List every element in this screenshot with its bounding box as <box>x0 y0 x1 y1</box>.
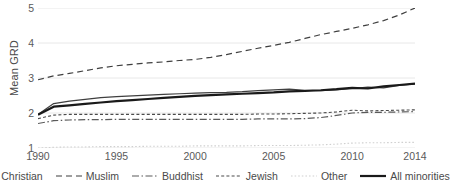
legend-swatch-icon <box>132 171 158 181</box>
legend-item-muslim[interactable]: Muslim <box>56 171 119 182</box>
chart-legend: ChristianMuslimBuddhistJewishOtherAll mi… <box>0 167 421 185</box>
x-tick-label: 2000 <box>183 150 206 162</box>
legend-item-christian[interactable]: Christian <box>0 171 43 182</box>
x-tick-label: 2014 <box>403 150 426 162</box>
series-line-jewish <box>38 110 415 119</box>
legend-item-all-minorities[interactable]: All minorities <box>360 171 450 182</box>
y-tick-label: 3 <box>18 73 34 83</box>
plot-area <box>38 8 415 148</box>
series-line-all-minorities <box>38 84 415 115</box>
y-tick-label: 5 <box>18 3 34 13</box>
legend-item-buddhist[interactable]: Buddhist <box>132 171 203 182</box>
x-tick-label: 1990 <box>26 150 49 162</box>
y-axis-tick-labels: 12345 <box>18 8 34 148</box>
legend-label: All minorities <box>390 171 450 182</box>
series-line-other <box>38 142 415 148</box>
x-tick-label: 2010 <box>340 150 363 162</box>
legend-swatch-icon <box>216 171 242 181</box>
grid-lines <box>38 8 415 148</box>
x-tick-label: 2005 <box>262 150 285 162</box>
legend-label: Christian <box>1 171 42 182</box>
legend-swatch-icon <box>360 171 386 181</box>
x-axis-tick-labels: 199019952000200520102014 <box>38 150 415 164</box>
y-tick-label: 2 <box>18 108 34 118</box>
y-tick-label: 4 <box>18 38 34 48</box>
legend-label: Jewish <box>246 171 278 182</box>
legend-item-jewish[interactable]: Jewish <box>216 171 278 182</box>
legend-swatch-icon <box>56 171 82 181</box>
legend-label: Muslim <box>86 171 119 182</box>
series-line-muslim <box>38 8 415 80</box>
legend-label: Other <box>321 171 347 182</box>
legend-swatch-icon <box>291 171 317 181</box>
legend-label: Buddhist <box>162 171 203 182</box>
x-tick-label: 1995 <box>105 150 128 162</box>
legend-item-other[interactable]: Other <box>291 171 347 182</box>
